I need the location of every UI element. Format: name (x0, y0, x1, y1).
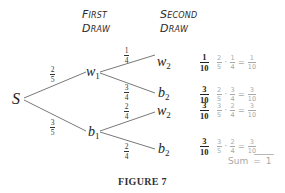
header-second-draw-line2: Draw (160, 23, 197, 35)
result-num: 3 (202, 137, 206, 146)
node-w1-sub: 1 (95, 71, 100, 81)
node-w2-from-w1: w2 (157, 55, 171, 73)
header-second-draw-line1: Second (160, 9, 197, 21)
result-den: 10 (200, 64, 209, 73)
sum-equals: = (253, 156, 261, 166)
calc-den: 10 (248, 112, 256, 119)
prob-num: 3 (51, 119, 55, 127)
calc-num: 3 (250, 103, 254, 110)
branch-s-w1 (24, 72, 86, 98)
result-den: 10 (200, 148, 209, 157)
prob-w1-b2: 34 (124, 84, 129, 101)
outcome-calculation: 35 · 24 = 310 (217, 103, 257, 118)
node-b2-sub: 2 (165, 92, 170, 102)
sum-value: 1 (266, 156, 272, 166)
sum-divider-line (254, 154, 274, 155)
prob-b1-w2: 24 (124, 103, 129, 120)
calc-equals: = (238, 58, 245, 67)
prob-den: 4 (125, 94, 129, 102)
calc-num: 1 (250, 55, 254, 62)
calc-operator: · (225, 106, 228, 115)
sum-label: Sum (228, 156, 248, 166)
node-b2-base: b (158, 85, 165, 100)
prob-den: 5 (51, 129, 55, 137)
calc-den: 4 (230, 148, 234, 155)
calc-num: 3 (217, 103, 221, 110)
calc-operator: · (225, 142, 228, 151)
node-start: S (12, 92, 20, 106)
node-w2-sub: 2 (166, 110, 171, 120)
header-first-draw-line2: Draw (82, 23, 110, 35)
calc-num: 3 (250, 139, 254, 146)
result-num: 3 (202, 85, 206, 94)
calc-equals: = (238, 90, 245, 99)
prob-den: 4 (125, 57, 129, 65)
calc-num: 1 (230, 55, 234, 62)
node-b2-from-w1: b2 (158, 86, 170, 104)
outcome-probability: 310 (200, 101, 209, 120)
prob-num: 2 (51, 66, 55, 74)
prob-b1-b2: 24 (124, 143, 129, 160)
calc-num: 3 (217, 139, 221, 146)
outcome-calculation: 35 · 24 = 310 (217, 139, 257, 154)
calc-num: 2 (217, 87, 221, 94)
node-b2-base: b (158, 141, 165, 156)
prob-den: 4 (125, 113, 129, 121)
calc-num: 2 (217, 55, 221, 62)
calc-den: 5 (217, 112, 221, 119)
node-w2-from-b1: w2 (157, 104, 171, 122)
header-first-draw-line1: First (82, 9, 110, 21)
calc-den: 5 (217, 148, 221, 155)
sum-row: Sum = 1 (228, 156, 271, 166)
result-num: 3 (202, 101, 206, 110)
prob-s-b1: 35 (50, 119, 55, 136)
outcome-calculation: 25 · 34 = 310 (217, 87, 257, 102)
node-w2-sub: 2 (166, 61, 171, 71)
node-w2-base: w (157, 54, 166, 69)
prob-w1-w2: 14 (124, 47, 129, 64)
calc-equals: = (238, 142, 245, 151)
outcome-row: 310 35 · 24 = 310 (200, 101, 256, 120)
prob-den: 5 (51, 76, 55, 84)
calc-den: 10 (248, 64, 256, 71)
node-b1-base: b (88, 124, 95, 139)
node-start-label: S (12, 90, 20, 107)
prob-num: 1 (125, 47, 129, 55)
result-num: 1 (202, 53, 206, 62)
node-b2-sub: 2 (165, 148, 170, 158)
prob-den: 4 (125, 153, 129, 161)
outcome-probability: 110 (200, 53, 209, 72)
node-b1-sub: 1 (95, 131, 100, 141)
figure-caption: FIGURE 7 (118, 176, 167, 187)
calc-equals: = (238, 106, 245, 115)
calc-operator: · (225, 58, 228, 67)
prob-num: 2 (125, 143, 129, 151)
prob-num: 3 (125, 84, 129, 92)
outcome-calculation: 25 · 14 = 110 (217, 55, 257, 70)
outcome-probability: 310 (200, 137, 209, 156)
calc-num: 2 (230, 139, 234, 146)
calc-den: 4 (230, 64, 234, 71)
calc-den: 4 (230, 112, 234, 119)
node-w1: w1 (86, 65, 100, 83)
outcome-row: 110 25 · 14 = 110 (200, 53, 256, 72)
calc-num: 3 (250, 87, 254, 94)
node-b2-from-b1: b2 (158, 142, 170, 160)
calc-operator: · (225, 90, 228, 99)
calc-den: 5 (217, 64, 221, 71)
node-w1-base: w (86, 64, 95, 79)
branch-s-b1 (24, 100, 86, 131)
calc-num: 2 (230, 103, 234, 110)
header-second-draw: Second Draw (160, 9, 197, 35)
header-first-draw: First Draw (82, 9, 110, 35)
result-den: 10 (200, 112, 209, 121)
prob-s-w1: 25 (50, 66, 55, 83)
node-w2-base: w (157, 103, 166, 118)
calc-num: 3 (230, 87, 234, 94)
outcome-row: 310 35 · 24 = 310 (200, 137, 256, 156)
node-b1: b1 (88, 125, 100, 143)
tree-diagram-figure: First Draw Second Draw S w1 b1 w2 b2 w2 … (0, 0, 285, 193)
prob-num: 2 (125, 103, 129, 111)
